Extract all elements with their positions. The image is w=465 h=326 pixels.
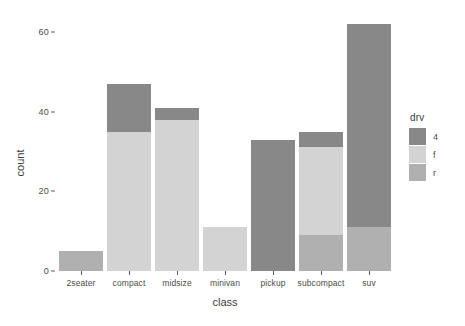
y-tick-mark [51,31,55,32]
bar-segment [299,132,342,148]
x-tick-mark [321,271,322,275]
x-tick-label: pickup [260,278,285,288]
bar-segment [155,120,198,271]
legend-key-swatch [409,164,426,181]
bar-segment [107,132,150,271]
legend-entries: 4fr [409,128,461,181]
x-tick-label: 2seater [66,278,95,288]
x-tick-label: suv [362,278,376,288]
bar-segment [347,24,390,227]
bar-segment [155,108,198,120]
bar-group [299,12,342,271]
bar-group [59,12,102,271]
bar-segment [299,147,342,235]
legend-key-swatch [409,146,426,163]
bar-group [107,12,150,271]
x-tick-mark [177,271,178,275]
y-tick-label: 40 [39,107,49,117]
legend-entry-label: f [433,150,436,160]
x-tick-label: compact [113,278,146,288]
bar-segment [107,84,150,132]
bar-segment [251,140,294,271]
y-tick-label: 0 [44,266,49,276]
plot-panel [57,12,393,271]
x-tick-label: minivan [210,278,240,288]
legend-entry-label: 4 [433,132,438,142]
x-tick-mark [129,271,130,275]
y-axis: count 0204060 [0,0,57,326]
x-tick-mark [225,271,226,275]
legend-key-swatch [409,128,426,145]
bar-group [203,12,246,271]
y-tick-mark [51,111,55,112]
y-tick-mark [51,191,55,192]
y-tick-mark [51,271,55,272]
x-tick-mark [369,271,370,275]
x-tick-mark [273,271,274,275]
legend-title: drv [410,112,461,123]
bar-group [251,12,294,271]
legend: drv 4fr [409,112,461,182]
y-axis-title-wrap: count [14,0,28,326]
x-tick-mark [81,271,82,275]
bar-series-container [57,12,393,271]
bar-segment [347,227,390,271]
bar-segment [59,251,102,271]
legend-entry-label: r [433,168,436,178]
bar-group [155,12,198,271]
x-axis-title: class [57,296,393,308]
y-tick-label: 60 [39,27,49,37]
y-tick-label: 20 [39,186,49,196]
legend-entry[interactable]: f [409,146,461,163]
bar-chart: count 0204060 2seatercompactmidsizeminiv… [0,0,465,326]
x-tick-label: subcompact [298,278,345,288]
bar-group [347,12,390,271]
x-tick-label: midsize [162,278,192,288]
legend-entry[interactable]: r [409,164,461,181]
bar-segment [203,227,246,271]
y-axis-title: count [14,150,26,177]
legend-entry[interactable]: 4 [409,128,461,145]
bar-segment [299,235,342,271]
